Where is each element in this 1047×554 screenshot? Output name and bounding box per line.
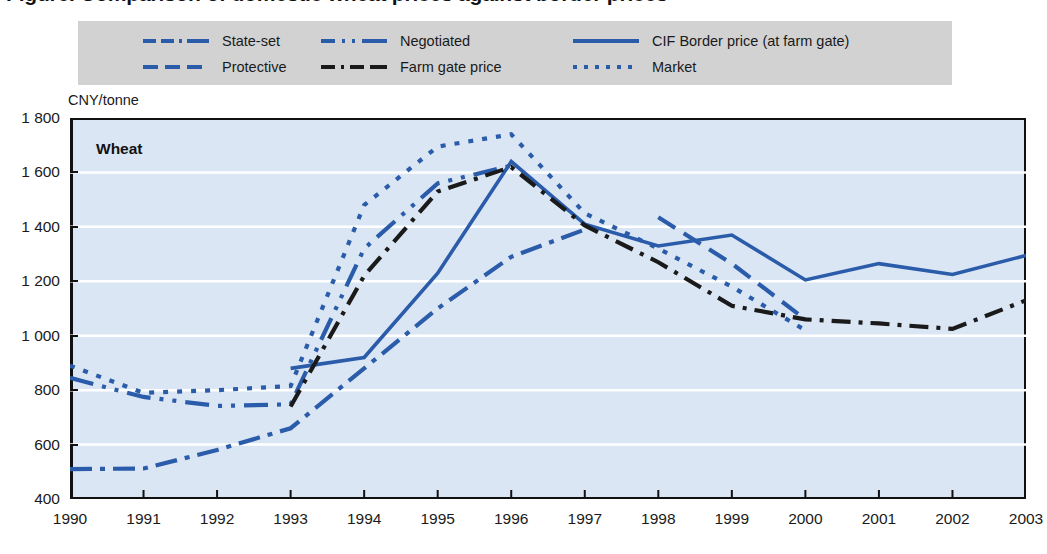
legend-label-farm-gate-price: Farm gate price (400, 59, 502, 75)
series-line-negotiated (70, 166, 511, 406)
y-tick-mark (70, 335, 78, 337)
x-tick-label: 2000 (788, 510, 822, 528)
x-tick-label: 1992 (200, 510, 234, 528)
series-line-farm-gate-price (291, 167, 1026, 406)
y-tick-label: 1 200 (21, 272, 60, 290)
x-tick-label: 1990 (53, 510, 87, 528)
legend-label-negotiated: Negotiated (400, 33, 470, 49)
series-line-state-set (70, 230, 585, 469)
legend-swatch-farm-gate-price (320, 60, 388, 74)
chart-legend: State-set Negotiated CIF Border price (a… (78, 21, 952, 85)
y-tick-mark (70, 226, 78, 228)
x-tick-label: 1997 (568, 510, 602, 528)
legend-item-state-set: State-set (78, 28, 314, 54)
legend-swatch-market (572, 60, 640, 74)
x-tick-label: 1996 (494, 510, 528, 528)
panel-label: Wheat (96, 140, 143, 158)
x-tick-label: 1993 (273, 510, 307, 528)
x-tick-label: 1999 (715, 510, 749, 528)
y-tick-mark (70, 280, 78, 282)
x-tick-label: 2003 (1009, 510, 1043, 528)
figure-title: Figure. Comparison of domestic wheat pri… (6, 0, 1006, 8)
legend-label-cif-border-price: CIF Border price (at farm gate) (652, 33, 849, 49)
legend-row-1: State-set Negotiated CIF Border price (a… (78, 28, 952, 54)
x-tick-label: 1995 (420, 510, 454, 528)
legend-swatch-state-set (142, 34, 210, 48)
legend-item-cif-border-price: CIF Border price (at farm gate) (564, 28, 944, 54)
y-tick-mark (70, 171, 78, 173)
y-tick-label: 600 (34, 436, 60, 454)
legend-swatch-protective (142, 60, 210, 74)
y-tick-label: 1 800 (21, 109, 60, 127)
y-axis-labels: 1 8001 6001 4001 2001 000800600400 (0, 0, 70, 554)
chart-svg (70, 118, 1026, 499)
x-tick-label: 1991 (126, 510, 160, 528)
y-axis-unit-label: CNY/tonne (68, 92, 139, 108)
legend-swatch-negotiated (320, 34, 388, 48)
legend-label-market: Market (652, 59, 696, 75)
series-line-cif-border-price-at-farm-gate (291, 162, 1026, 369)
legend-item-farm-gate-price: Farm gate price (314, 54, 564, 80)
plot-area: Wheat (70, 118, 1026, 499)
legend-swatch-cif-border-price (572, 34, 640, 48)
x-tick-label: 1998 (641, 510, 675, 528)
x-tick-label: 2001 (862, 510, 896, 528)
legend-label-protective: Protective (222, 59, 286, 75)
y-tick-mark (70, 389, 78, 391)
figure-container: Figure. Comparison of domestic wheat pri… (0, 0, 1047, 554)
legend-item-negotiated: Negotiated (314, 28, 564, 54)
y-tick-mark (70, 444, 78, 446)
y-tick-label: 1 000 (21, 327, 60, 345)
y-tick-label: 1 600 (21, 163, 60, 181)
y-tick-label: 800 (34, 381, 60, 399)
legend-label-state-set: State-set (222, 33, 280, 49)
x-tick-label: 2002 (935, 510, 969, 528)
x-tick-label: 1994 (347, 510, 381, 528)
y-tick-label: 1 400 (21, 218, 60, 236)
y-tick-label: 400 (34, 490, 60, 508)
legend-row-2: Protective Farm gate price Market (78, 54, 952, 80)
legend-item-protective: Protective (78, 54, 314, 80)
legend-item-market: Market (564, 54, 944, 80)
